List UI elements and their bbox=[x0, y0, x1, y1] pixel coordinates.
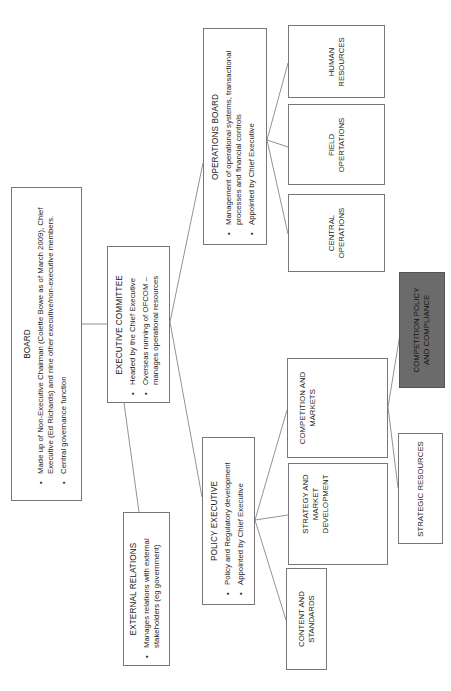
strategic-resources-label: STRATEGIC RESOURCES bbox=[416, 439, 426, 539]
field-operations-box: FIELD OPERTATIONS bbox=[288, 104, 385, 185]
board-bullets: Made up of Non-Executive Chairman (Colet… bbox=[35, 202, 68, 486]
external-relations-bullet: Manages relations with external stakehol… bbox=[142, 518, 162, 648]
executive-committee-bullet: Overseas running of OFCOM – manages oper… bbox=[140, 253, 160, 385]
strategic-resources-box: STRATEGIC RESOURCES bbox=[398, 433, 443, 544]
central-operations-label: CENTRAL OPERATIONS bbox=[327, 195, 347, 271]
operations-board-title: OPERATIONS BOARD bbox=[211, 37, 220, 237]
content-and-standards-box: CONTENT AND STANDARDS bbox=[286, 568, 327, 670]
operations-board-bullets: Management of operational systems, trans… bbox=[224, 37, 257, 237]
policy-executive-bullet: Policy and Regulatory development bbox=[222, 445, 232, 585]
executive-committee-title: EXECUTIVE COMMITTEE bbox=[114, 253, 123, 397]
external-relations-box: EXTERNAL RELATIONS Manages relations wit… bbox=[123, 512, 170, 666]
board-box: BOARD Made up of Non-Executive Chairman … bbox=[11, 187, 82, 501]
strategy-and-market-development-box: STRATEGY AND MARKET DEVELOPMENT bbox=[288, 463, 388, 565]
external-relations-title: EXTERNAL RELATIONS bbox=[129, 518, 138, 660]
human-resources-box: HUMAN RESOURCES bbox=[288, 25, 385, 98]
board-bullet: Central governance function bbox=[58, 202, 68, 474]
field-operations-label: FIELD OPERTATIONS bbox=[327, 106, 347, 184]
human-resources-label: HUMAN RESOURCES bbox=[327, 27, 347, 97]
policy-executive-box: POLICY EXECUTIVE Policy and Regulatory d… bbox=[202, 437, 255, 605]
executive-committee-box: EXECUTIVE COMMITTEE Headed by the Chief … bbox=[107, 246, 170, 403]
central-operations-box: CENTRAL OPERATIONS bbox=[288, 194, 385, 272]
operations-board-bullet: Appointed by Chief Executive bbox=[247, 37, 257, 225]
executive-committee-bullets: Headed by the Chief Executive Overseas r… bbox=[127, 253, 160, 397]
competition-and-markets-box: COMPETITION AND MARKETS bbox=[287, 358, 388, 458]
competition-policy-and-compliance-label: COMPETITION POLICY AND COMPLIANCE bbox=[412, 280, 432, 380]
operations-board-bullet: Management of operational systems, trans… bbox=[224, 37, 244, 225]
content-and-standards-label: CONTENT AND STANDARDS bbox=[297, 570, 317, 668]
external-relations-bullets: Manages relations with external stakehol… bbox=[142, 518, 162, 660]
board-title: BOARD bbox=[22, 202, 31, 486]
policy-executive-bullet: Appointed by Chief Executive bbox=[235, 445, 245, 585]
executive-committee-bullet: Headed by the Chief Executive bbox=[127, 253, 137, 385]
operations-board-box: OPERATIONS BOARD Management of operation… bbox=[203, 28, 267, 245]
competition-policy-and-compliance-box: COMPETITION POLICY AND COMPLIANCE bbox=[399, 272, 445, 388]
board-bullet: Made up of Non-Executive Chairman (Colet… bbox=[35, 202, 55, 474]
competition-and-markets-label: COMPETITION AND MARKETS bbox=[298, 360, 318, 456]
policy-executive-title: POLICY EXECUTIVE bbox=[209, 445, 218, 597]
strategy-and-market-development-label: STRATEGY AND MARKET DEVELOPMENT bbox=[301, 469, 331, 539]
policy-executive-bullets: Policy and Regulatory development Appoin… bbox=[222, 445, 245, 597]
